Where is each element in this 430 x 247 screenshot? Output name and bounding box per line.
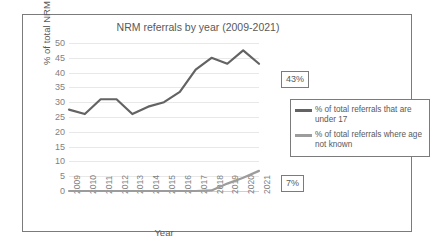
legend-swatch-age-not-known-icon	[295, 134, 312, 137]
legend-swatch-under-17-icon	[295, 109, 312, 112]
plot-area: 50454035302520151050 2009201020112012201…	[69, 43, 259, 191]
series-layer	[69, 43, 259, 191]
y-tick-label: 20	[43, 128, 65, 137]
y-tick-label: 50	[43, 39, 65, 48]
y-tick-label: 10	[43, 157, 65, 166]
chart-title: NRM referrals by year (2009-2021)	[83, 21, 313, 33]
y-tick-label: 40	[43, 69, 65, 78]
y-tick-label: 5	[43, 172, 65, 181]
x-axis-title: Year	[69, 227, 259, 238]
y-tick-label: 15	[43, 143, 65, 152]
data-label-age-not-known: 7%	[281, 175, 304, 192]
data-label-under-17: 43%	[281, 71, 309, 88]
y-tick-label: 0	[43, 187, 65, 196]
legend-label-age-not-known: % of total referrals where age not known	[315, 130, 425, 150]
legend-label-under-17: % of total referrals that are under 17	[315, 105, 425, 125]
chart-legend: % of total referrals that are under 17 %…	[290, 99, 430, 157]
y-tick-label: 25	[43, 113, 65, 122]
y-tick-label: 30	[43, 98, 65, 107]
x-tick-label: 2021	[263, 175, 272, 194]
y-tick-label: 45	[43, 54, 65, 63]
line-series-under-17	[69, 50, 259, 114]
y-tick-label: 35	[43, 83, 65, 92]
legend-item-under-17: % of total referrals that are under 17	[295, 105, 425, 125]
chart-frame: NRM referrals by year (2009-2021) % of t…	[22, 14, 412, 232]
legend-item-age-not-known: % of total referrals where age not known	[295, 130, 425, 150]
line-series-age-not-known	[69, 171, 259, 191]
